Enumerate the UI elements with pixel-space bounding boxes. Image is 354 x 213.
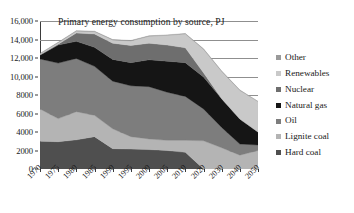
y-axis-tick-label: 6000: [16, 109, 33, 118]
y-axis-tick-label: 10,000: [10, 72, 33, 81]
legend-item-label: Other: [285, 53, 306, 62]
y-axis-tick-label: 14,000: [10, 35, 33, 44]
legend-item-nuclear[interactable]: Nuclear: [276, 82, 354, 98]
legend-swatch-icon: [276, 119, 281, 124]
legend-item-label: Natural gas: [285, 101, 327, 110]
legend-swatch-icon: [276, 103, 281, 108]
y-axis-tick-mark: [35, 39, 38, 40]
y-axis-tick-label: 2000: [16, 146, 33, 155]
legend-swatch-icon: [276, 55, 281, 60]
legend-swatch-icon: [276, 87, 281, 92]
y-axis-tick-mark: [35, 150, 38, 151]
y-axis-tick-label: 8000: [16, 91, 33, 100]
legend-item-label: Renewables: [285, 69, 329, 78]
y-axis-tick-mark: [35, 113, 38, 114]
legend-item-lignite-coal[interactable]: Lignite coal: [276, 129, 354, 145]
x-axis: 1970197519801985199019952000200520102020…: [40, 169, 258, 213]
legend-swatch-icon: [276, 134, 281, 139]
legend-item-oil[interactable]: Oil: [276, 113, 354, 129]
y-axis-tick-label: 4000: [16, 128, 33, 137]
stacked-areas: [40, 21, 258, 169]
y-axis-tick-mark: [35, 21, 38, 22]
legend-item-label: Lignite coal: [285, 132, 329, 141]
plot-area: [40, 21, 258, 169]
legend-item-hard-coal[interactable]: Hard coal: [276, 145, 354, 161]
legend-item-renewables[interactable]: Renewables: [276, 66, 354, 82]
legend-item-label: Nuclear: [285, 85, 314, 94]
y-axis: 0200040006000800010,00012,00014,00016,00…: [0, 21, 38, 169]
y-axis-tick-mark: [35, 58, 38, 59]
legend-item-natural-gas[interactable]: Natural gas: [276, 97, 354, 113]
legend-swatch-icon: [276, 71, 281, 76]
y-axis-tick-mark: [35, 132, 38, 133]
y-axis-tick-label: 12,000: [10, 54, 33, 63]
legend-swatch-icon: [276, 150, 281, 155]
chart-figure: 0200040006000800010,00012,00014,00016,00…: [0, 0, 354, 213]
chart-legend: OtherRenewablesNuclearNatural gasOilLign…: [276, 50, 354, 161]
legend-item-other[interactable]: Other: [276, 50, 354, 66]
legend-item-label: Hard coal: [285, 148, 321, 157]
y-axis-tick-mark: [35, 95, 38, 96]
y-axis-tick-label: 16,000: [10, 17, 33, 26]
legend-item-label: Oil: [285, 116, 297, 125]
chart-title: Primary energy consumption by source, PJ: [58, 17, 225, 28]
y-axis-tick-mark: [35, 76, 38, 77]
